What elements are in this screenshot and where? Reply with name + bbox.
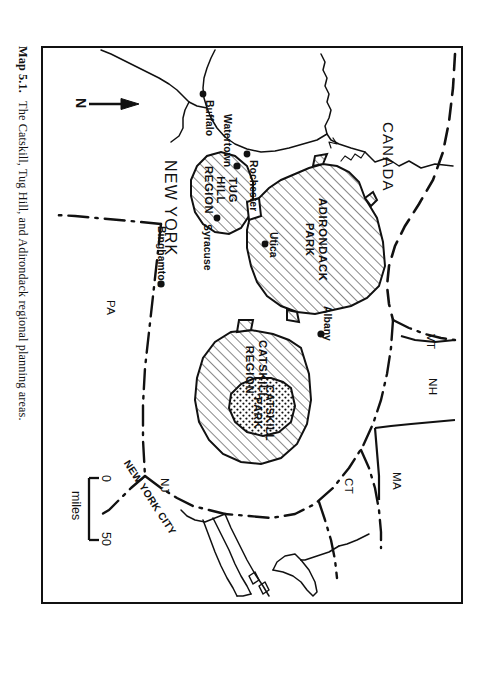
caption-number: Map 5.1. [16,46,30,93]
coastline-great-lakes [101,50,453,168]
city-dot-binghamton [157,280,164,287]
unhatched-notch [247,198,261,220]
city-dot-rochester [244,151,251,158]
city-dot-utica [262,241,269,248]
north-arrow [89,99,139,110]
state-boundaries-solid [375,336,455,500]
figure-page: CANADA NEW YORK VT NH MA CT NJ PA NEW YO… [0,0,498,674]
scale-bar [89,478,99,540]
map-drawing [47,48,461,598]
city-dot-watertown [233,162,240,169]
coastline-atlantic [181,510,369,596]
city-dot-buffalo [200,91,207,98]
caption-text: The Catskill, Tug Hill, and Adirondack r… [16,101,30,420]
international-border [387,54,455,320]
map-figure: CANADA NEW YORK VT NH MA CT NJ PA NEW YO… [0,0,498,674]
adirondack-park-area [247,154,385,322]
city-dot-albany [317,330,324,337]
map-frame: CANADA NEW YORK VT NH MA CT NJ PA NEW YO… [41,46,463,604]
city-dot-syracuse [214,215,221,222]
tug-hill-region-area [191,152,253,234]
figure-caption: Map 5.1. The Catskill, Tug Hill, and Adi… [15,46,30,606]
